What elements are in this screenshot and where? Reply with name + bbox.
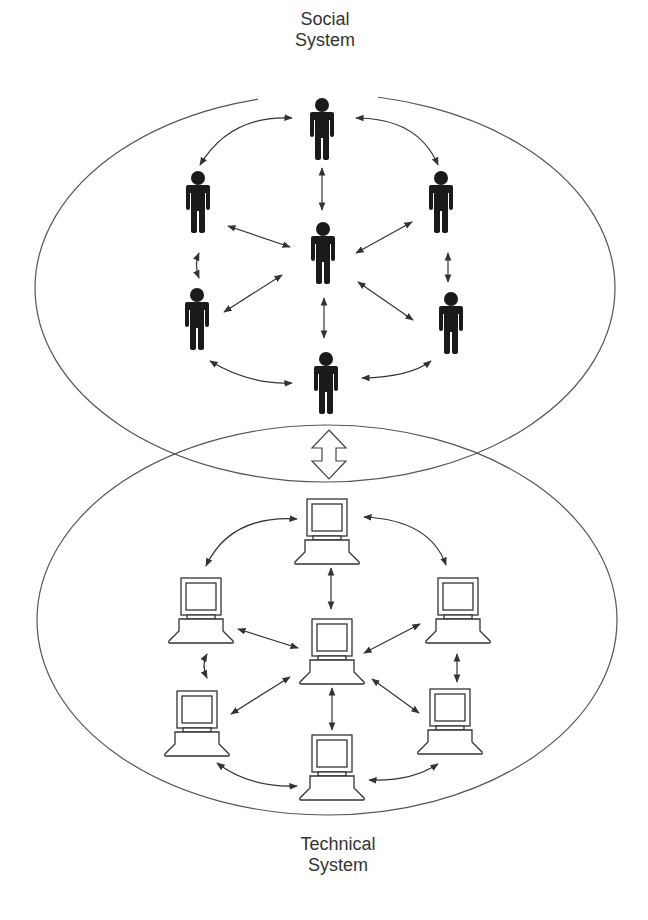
- social-label-line-1: Social: [245, 9, 405, 30]
- person-icon: [311, 222, 335, 284]
- person-icon: [439, 292, 463, 354]
- technical-system-computers: [165, 499, 491, 800]
- computer-icon: [418, 689, 483, 754]
- computer-icon: [300, 735, 365, 800]
- person-icon: [185, 288, 209, 350]
- computer-icon: [426, 578, 491, 643]
- social-system-label: Social System: [245, 9, 405, 51]
- computer-icon: [165, 691, 230, 756]
- sociotechnical-diagram: [0, 0, 648, 920]
- technical-system-label: Technical System: [258, 834, 418, 876]
- person-icon: [186, 171, 210, 233]
- technical-label-line-1: Technical: [258, 834, 418, 855]
- computer-icon: [295, 499, 360, 564]
- double-arrow-icon: [312, 430, 346, 479]
- computer-icon: [300, 619, 365, 684]
- person-icon: [429, 171, 453, 233]
- person-icon: [310, 98, 334, 160]
- social-label-line-2: System: [245, 30, 405, 51]
- person-icon: [314, 352, 338, 414]
- computer-icon: [169, 578, 234, 643]
- technical-label-line-2: System: [258, 855, 418, 876]
